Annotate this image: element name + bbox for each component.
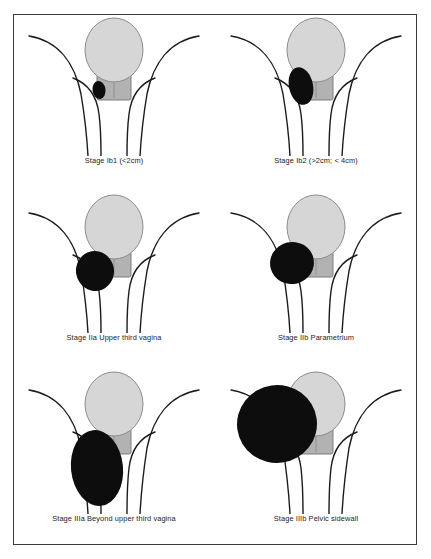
panel-grid: Stage Ib1 (<2cm) Stage Ib2 (>2cm; < 4cm) xyxy=(13,14,417,545)
caption-stage-iiib: Stage IIIb Pelvic sidewall xyxy=(274,515,358,523)
diagram-stage-iia xyxy=(13,191,215,333)
panel-stage-ib1: Stage Ib1 (<2cm) xyxy=(13,14,215,191)
uterus-body xyxy=(85,18,143,82)
panel-stage-iiib: Stage IIIb Pelvic sidewall xyxy=(215,368,417,545)
uterus-body xyxy=(85,372,143,436)
panel-stage-iiia: Stage IIIa Beyond upper third vagina xyxy=(13,368,215,545)
pelvic-sidewall-left xyxy=(231,36,290,156)
pelvic-sidewall-right xyxy=(140,390,199,514)
caption-stage-iib: Stage IIb Parametrium xyxy=(278,334,354,342)
pelvic-sidewall-right xyxy=(140,213,199,333)
caption-stage-iiia: Stage IIIa Beyond upper third vagina xyxy=(52,515,176,523)
pelvic-sidewall-right xyxy=(342,213,401,333)
pelvic-sidewall-right xyxy=(140,36,199,156)
diagram-stage-ib2 xyxy=(215,14,417,156)
pelvic-sidewall-left xyxy=(29,36,88,156)
caption-stage-ib2: Stage Ib2 (>2cm; < 4cm) xyxy=(274,157,358,165)
panel-stage-ib2: Stage Ib2 (>2cm; < 4cm) xyxy=(215,14,417,191)
diagram-stage-iib xyxy=(215,191,417,333)
diagram-stage-iiib xyxy=(215,368,417,514)
caption-stage-iia: Stage IIa Upper third vagina xyxy=(67,334,162,342)
diagram-stage-iiia xyxy=(13,368,215,514)
pelvic-sidewall-right xyxy=(342,36,401,156)
panel-stage-iia: Stage IIa Upper third vagina xyxy=(13,191,215,368)
staging-figure: Stage Ib1 (<2cm) Stage Ib2 (>2cm; < 4cm) xyxy=(0,0,431,559)
diagram-stage-ib1 xyxy=(13,14,215,156)
pelvic-sidewall-right xyxy=(342,390,401,514)
panel-stage-iib: Stage IIb Parametrium xyxy=(215,191,417,368)
caption-stage-ib1: Stage Ib1 (<2cm) xyxy=(85,157,144,165)
uterus-body xyxy=(85,195,143,259)
